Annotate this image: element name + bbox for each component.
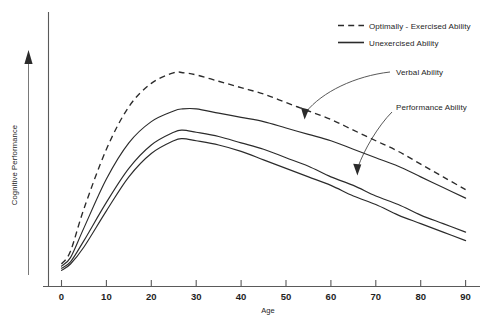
series-line-performance-ability-lower	[62, 139, 466, 271]
x-tick-label-70: 70	[371, 291, 382, 302]
x-tick-label-60: 60	[326, 291, 337, 302]
legend-item-unexercised: Unexercised Ability	[338, 39, 439, 48]
chart-canvas: Cognitive Performance 0 10 20 30 40 50 6…	[0, 0, 498, 320]
series-line-optimally-exercised-ability	[62, 72, 466, 264]
x-axis-title: Age	[261, 306, 274, 315]
chart-legend: Optimally - Exercised Ability Unexercise…	[338, 22, 471, 48]
series-line-performance-ability	[62, 130, 466, 268]
x-tick-label-40: 40	[236, 291, 247, 302]
x-tick-label-0: 0	[59, 291, 64, 302]
legend-label-unexercised: Unexercised Ability	[369, 39, 439, 48]
cognitive-performance-chart: Cognitive Performance 0 10 20 30 40 50 6…	[0, 0, 498, 320]
x-tick-label-30: 30	[191, 291, 202, 302]
legend-item-optimally-exercised: Optimally - Exercised Ability	[338, 22, 471, 31]
data-series-group	[62, 72, 466, 271]
y-axis-title: Cognitive Performance	[10, 125, 19, 205]
x-tick-label-50: 50	[281, 291, 292, 302]
performance-ability-leader	[353, 112, 392, 176]
x-tick-label-20: 20	[146, 291, 157, 302]
annotation-verbal-ability: Verbal Ability	[396, 68, 443, 77]
verbal-ability-leader	[301, 72, 390, 120]
annotation-performance-ability: Performance Ability	[396, 103, 467, 112]
x-tick-label-10: 10	[101, 291, 112, 302]
x-tick-label-80: 80	[415, 291, 426, 302]
x-tick-label-90: 90	[460, 291, 471, 302]
legend-label-optimally-exercised: Optimally - Exercised Ability	[369, 22, 471, 31]
y-axis-arrow	[24, 50, 32, 275]
